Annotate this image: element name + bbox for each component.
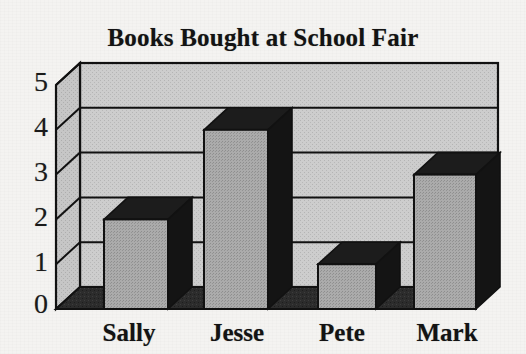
x-tick-label-pete: Pete <box>292 320 392 345</box>
bar-jesse[interactable] <box>204 108 292 309</box>
plot-left-wall <box>56 63 80 309</box>
bar-chart-plot: 5 4 3 2 1 0 Sally Jesse Pete Mark <box>0 0 526 354</box>
y-tick-label-4: 4 <box>14 113 48 141</box>
chart-svg <box>0 0 526 354</box>
x-tick-label-sally: Sally <box>74 320 184 345</box>
x-tick-label-jesse: Jesse <box>182 320 292 345</box>
y-tick-label-3: 3 <box>14 158 48 186</box>
bar-sally[interactable] <box>104 197 192 309</box>
bar-mark[interactable] <box>414 153 500 309</box>
bar-pete[interactable] <box>318 242 400 309</box>
y-tick-label-5: 5 <box>14 68 48 96</box>
y-tick-label-0: 0 <box>14 290 48 318</box>
y-tick-label-1: 1 <box>14 248 48 276</box>
y-tick-label-2: 2 <box>14 203 48 231</box>
x-tick-label-mark: Mark <box>392 320 502 345</box>
